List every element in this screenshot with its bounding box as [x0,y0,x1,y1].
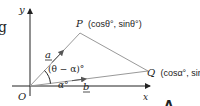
point-p-name: P [75,18,83,29]
vector-angle-diagram: g y x O a b (θ − α)° α° P (cosθ°, sinθ°)… [0,0,200,106]
point-p-label: P (cosθ°, sinθ°) [75,18,142,29]
x-axis-label: x [143,92,148,102]
point-q-label: Q (cosα°, sinα°) [147,67,200,78]
y-axis-label: y [18,4,25,15]
vector-a-arrow-icon [52,52,62,63]
vector-b-label: b [83,81,89,92]
line-pq [80,33,148,71]
point-p-coords: (cosθ°, sinθ°) [88,19,142,29]
point-q-name: Q [147,67,155,78]
point-q-coords: (cosα°, sinα°) [160,68,200,78]
bottom-right-fragment: A [163,98,175,106]
angle-theta-minus-alpha-label: (θ − α)° [48,64,84,74]
origin-label: O [18,91,26,102]
vector-a-label: a [45,49,51,60]
angle-alpha-label: α° [58,80,69,90]
left-edge-fragment: g [0,19,7,35]
